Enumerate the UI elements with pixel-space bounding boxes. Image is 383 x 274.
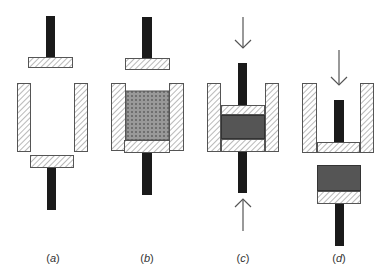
lower-punch-rod (47, 168, 56, 210)
upper-punch-rod (334, 100, 344, 142)
upper-punch-rod (142, 17, 152, 58)
hatched-die-part (125, 141, 170, 153)
loose-powder (126, 91, 169, 140)
panel-b: (b) (112, 17, 184, 264)
panel-label-a: (a) (46, 252, 59, 264)
hatched-die-part (222, 106, 265, 115)
lower-punch-rod (238, 152, 247, 193)
hatched-die-part (29, 58, 73, 68)
hatched-die-part (126, 59, 170, 70)
lower-punch-rod (335, 204, 344, 246)
hatched-die-part (266, 84, 279, 152)
hatched-die-part (112, 84, 126, 151)
hatched-die-part (222, 140, 265, 152)
arrow-down-icon (331, 50, 347, 85)
hatched-die-part (208, 84, 221, 152)
panel-label-d: (d) (332, 252, 345, 264)
arrow-down-icon (235, 17, 251, 48)
hatched-die-part (318, 192, 361, 204)
panel-label-b: (b) (140, 252, 153, 264)
upper-punch-rod (238, 63, 247, 105)
panel-a: (a) (18, 16, 88, 264)
hatched-die-part (18, 84, 31, 152)
lower-punch-rod (142, 153, 152, 195)
hatched-die-part (75, 84, 88, 152)
hatched-die-part (303, 84, 317, 153)
hatched-die-part (318, 143, 360, 153)
panel-c: (c) (208, 17, 279, 264)
hatched-die-part (31, 156, 74, 168)
hatched-die-part (170, 84, 184, 151)
panel-label-c: (c) (237, 252, 250, 264)
upper-punch-rod (46, 16, 55, 57)
panels-layer: (a)(b)(c)(d) (18, 16, 374, 264)
hatched-die-part (361, 84, 374, 153)
green-compact (222, 116, 265, 139)
panel-d: (d) (303, 50, 374, 264)
die-compaction-diagram: (a)(b)(c)(d) (0, 0, 383, 274)
green-compact (318, 166, 361, 191)
arrow-up-icon (235, 199, 251, 231)
